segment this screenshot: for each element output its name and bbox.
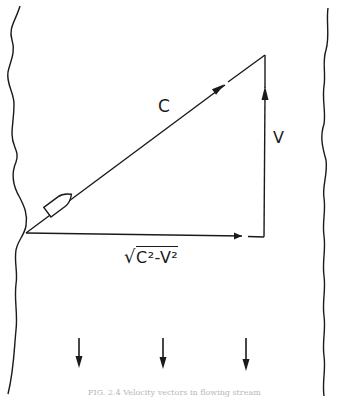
flow-arrow-2 bbox=[160, 338, 167, 369]
flow-arrow-1 bbox=[76, 338, 83, 368]
vector-diagram bbox=[0, 0, 338, 401]
cross-stream-vector bbox=[26, 233, 242, 236]
boat-icon bbox=[44, 189, 75, 217]
label-resultant-c: C bbox=[158, 96, 170, 116]
radicand: C²-V² bbox=[136, 246, 178, 267]
radical-sign: √ bbox=[124, 246, 136, 267]
label-cross-component: √C²-V² bbox=[124, 246, 178, 267]
label-current-v: V bbox=[273, 128, 284, 147]
flow-arrow-3 bbox=[243, 338, 250, 371]
left-riverbank bbox=[8, 6, 27, 394]
right-riverbank bbox=[322, 8, 328, 396]
arrowhead-current bbox=[262, 86, 269, 100]
arrowhead-cross-stream bbox=[234, 233, 242, 240]
figure-caption: FIG. 2.4 Velocity vectors in flowing str… bbox=[88, 388, 261, 397]
current-vector bbox=[264, 95, 265, 237]
